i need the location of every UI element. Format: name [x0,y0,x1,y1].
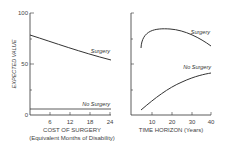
x-tick: 6 [48,119,52,125]
x-tick: 30 [189,119,196,125]
y-tick-100: 100 [18,10,29,16]
left-chart: 100 50 0 6 12 18 24 COST OF SURGERY (Equ… [11,10,115,141]
x-axis-label: TIME HORIZON (Years) [139,127,203,133]
y-tick-0: 0 [25,112,29,118]
y-tick-50: 50 [21,61,28,67]
y-axis-label: EXPECTED VALUE [11,39,17,88]
x-tick: 12 [67,119,74,125]
chart-figure: 100 50 0 6 12 18 24 COST OF SURGERY (Equ… [0,0,226,147]
x-tick: 10 [149,119,156,125]
x-axis-sublabel: (Equivalent Months of Disability) [29,135,115,141]
no-surgery-curve [141,73,211,110]
x-tick: 24 [107,119,114,125]
series-label-surgery: Surgery [191,29,212,35]
x-tick: 40 [208,119,215,125]
series-label-no-surgery: No Surgery [82,101,111,107]
x-axis-label: COST OF SURGERY [43,127,101,133]
series-label-no-surgery: No Surgery [183,64,212,70]
right-chart: 10 20 30 40 TIME HORIZON (Years) Surgery… [131,13,215,133]
series-label-surgery: Surgery [91,48,112,54]
x-tick: 18 [87,119,94,125]
x-tick: 20 [169,119,176,125]
